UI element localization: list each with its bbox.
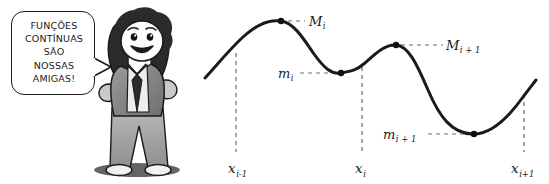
label-x-i: xi [355,158,365,177]
label-M-i-subscript: i [323,21,326,31]
head [121,21,163,61]
label-M-i-base: M [309,14,322,29]
label-M-i-plus-1-subscript: i + 1 [460,45,481,55]
label-x-i-plus-1-subscript: i+1 [519,169,534,179]
label-x-i-plus-1: xi+1 [511,158,534,177]
function-curve [205,21,536,134]
point-M-i [278,18,284,24]
trousers [110,108,168,168]
label-m-i-plus-1-subscript: i + 1 [396,134,417,144]
label-M-i-plus-1: Mi + 1 [446,35,480,54]
left-eye [131,33,138,41]
right-eye [147,33,154,41]
right-eye-highlight [150,35,152,37]
continuous-function-graph: Mi mi Mi + 1 mi + 1 xi-1 xi xi+1 [190,0,549,184]
speech-bubble-tail [93,57,113,79]
speech-bubble: FUNÇÕES CONTÍNUAS SÃO NOSSAS AMIGAS! [11,11,95,95]
label-x-i-minus-1-subscript: i-1 [236,169,247,179]
label-m-i-base: m [278,66,290,81]
left-shoe [106,165,132,176]
label-x-i-base: x [355,160,363,176]
cartoon-illustration: FUNÇÕES CONTÍNUAS SÃO NOSSAS AMIGAS! [0,0,190,184]
label-M-i: Mi [309,11,325,30]
point-m-i [338,70,344,76]
label-m-i-plus-1-base: m [383,127,395,142]
label-m-i: mi [278,63,293,82]
left-eye-highlight [134,35,136,37]
figure-page: FUNÇÕES CONTÍNUAS SÃO NOSSAS AMIGAS! [0,0,549,184]
right-shoe [145,165,171,176]
label-x-i-subscript: i [363,169,366,179]
speech-bubble-text: FUNÇÕES CONTÍNUAS SÃO NOSSAS AMIGAS! [12,19,96,85]
label-x-i-minus-1: xi-1 [228,158,247,177]
label-m-i-plus-1: mi + 1 [383,124,416,143]
label-x-i-plus-1-base: x [511,160,519,176]
label-M-i-plus-1-base: M [446,38,459,53]
point-m-i-plus-1 [471,131,477,137]
label-m-i-subscript: i [291,73,294,83]
label-x-i-minus-1-base: x [228,160,236,176]
graph-svg [190,0,549,184]
point-M-i-plus-1 [393,42,399,48]
